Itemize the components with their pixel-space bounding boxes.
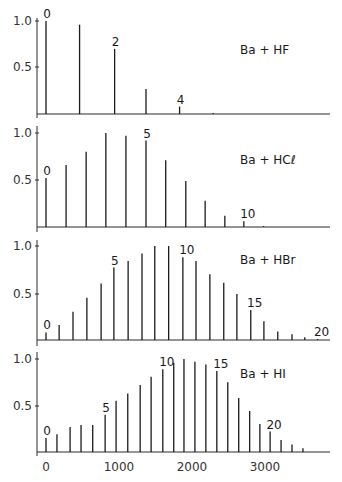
vibrational-distribution-chart: 1.0 0.5 Ba + HF 024 1.0 0.5 Ba + HCℓ 051… (0, 0, 342, 482)
bars: 024 (43, 7, 213, 114)
level-label-15: 15 (247, 296, 262, 310)
xtick-1000: 1000 (104, 460, 135, 474)
level-label-10: 10 (179, 243, 194, 257)
xtick-2000: 2000 (177, 460, 208, 474)
ytick-0.5: 0.5 (13, 173, 32, 187)
panel-ba-hf: 1.0 0.5 Ba + HF 024 (13, 7, 330, 118)
level-label-5: 5 (143, 127, 151, 141)
level-label-15: 15 (213, 357, 228, 371)
level-label-0: 0 (43, 318, 51, 332)
level-label-0: 0 (43, 424, 51, 438)
ytick-1.0: 1.0 (13, 14, 32, 28)
ytick-0.5: 0.5 (13, 60, 32, 74)
level-label-2: 2 (112, 35, 120, 49)
xtick-0: 0 (42, 460, 50, 474)
ytick-1.0: 1.0 (13, 239, 32, 253)
level-label-5: 5 (111, 254, 119, 268)
ytick-1.0: 1.0 (13, 126, 32, 140)
level-label-20: 20 (314, 325, 329, 339)
bars: 0510 (43, 127, 263, 227)
panel-title: Ba + HCℓ (240, 153, 296, 167)
ytick-1.0: 1.0 (13, 352, 32, 366)
ytick-0.5: 0.5 (13, 287, 32, 301)
panel-title: Ba + HI (240, 367, 286, 381)
level-label-4: 4 (177, 93, 185, 107)
level-label-0: 0 (43, 164, 51, 178)
level-label-20: 20 (266, 418, 281, 432)
ytick-0.5: 0.5 (13, 399, 32, 413)
panel-title: Ba + HBr (240, 253, 296, 267)
panel-ba-hcl: 1.0 0.5 Ba + HCℓ 0510 (13, 126, 330, 232)
level-label-5: 5 (102, 401, 110, 415)
level-label-0: 0 (43, 7, 51, 21)
panel-title: Ba + HF (240, 43, 289, 57)
xtick-3000: 3000 (250, 460, 281, 474)
panel-ba-hi: 1.0 0.5 Ba + HI 05101520 0 1000 2000 300… (13, 352, 330, 474)
panel-ba-hbr: 1.0 0.5 Ba + HBr 05101520 (13, 239, 330, 346)
level-label-10: 10 (159, 355, 174, 369)
level-label-10: 10 (240, 207, 255, 221)
